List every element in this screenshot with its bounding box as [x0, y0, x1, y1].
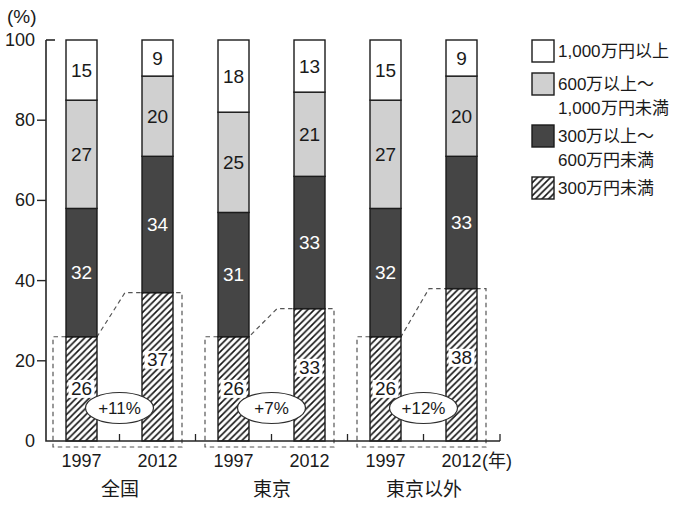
year-label: 1997 [213, 451, 253, 471]
value-label: 27 [71, 144, 92, 165]
legend-label: 300万円未満 [558, 179, 654, 198]
annotation-label: +11% [98, 399, 141, 418]
value-label: 26 [71, 378, 92, 399]
value-label: 33 [299, 357, 320, 378]
value-label: 26 [223, 378, 244, 399]
annotation-label: +12% [402, 399, 446, 418]
legend-swatch-hatch [532, 177, 554, 199]
legend-label: 1,000万円以上 [558, 42, 669, 61]
value-label: 33 [451, 212, 472, 233]
value-label: 32 [375, 262, 396, 283]
value-label: 20 [451, 106, 472, 127]
year-label: 2012 [137, 451, 177, 471]
value-label: 34 [147, 214, 169, 235]
group-label: 東京 [253, 479, 291, 500]
value-label: 20 [147, 106, 168, 127]
y-tick-label: 20 [15, 351, 35, 371]
value-label: 38 [451, 347, 472, 368]
value-label: 15 [71, 60, 92, 81]
y-tick-label: 60 [15, 190, 35, 210]
income-distribution-chart: 26322715199737342092012+11%全国26312518199… [0, 0, 687, 510]
legend-label: 600万円未満 [558, 151, 654, 170]
value-label: 27 [375, 144, 396, 165]
value-label: 18 [223, 66, 244, 87]
y-tick-label: 40 [15, 271, 35, 291]
group-label: 東京以外 [386, 479, 462, 500]
value-label: 25 [223, 152, 244, 173]
value-label: 37 [147, 349, 168, 370]
legend-label: 600万以上～ [558, 75, 654, 94]
legend-item: 300万円未満 [532, 177, 654, 199]
legend-swatch-light [532, 73, 554, 95]
y-tick-label: 0 [25, 431, 35, 451]
y-tick-label: 80 [15, 110, 35, 130]
year-label: 2012 [289, 451, 329, 471]
value-label: 26 [375, 378, 396, 399]
legend-swatch-dark [532, 125, 554, 147]
legend-label: 300万以上～ [558, 127, 654, 146]
value-label: 9 [152, 48, 163, 69]
value-label: 15 [375, 60, 396, 81]
annotation-label: +7% [254, 399, 289, 418]
value-label: 31 [223, 264, 244, 285]
value-label: 9 [456, 48, 467, 69]
year-label: 1997 [61, 451, 101, 471]
y-axis-unit-label: (%) [7, 6, 37, 27]
year-label: 1997 [365, 451, 405, 471]
legend-swatch-white [532, 40, 554, 62]
chart-svg: 26322715199737342092012+11%全国26312518199… [0, 0, 687, 510]
value-label: 21 [299, 124, 320, 145]
value-label: 33 [299, 232, 320, 253]
y-tick-label: 100 [5, 30, 35, 50]
group-label: 全国 [101, 479, 139, 500]
value-label: 32 [71, 262, 92, 283]
legend-item: 1,000万円以上 [532, 40, 669, 62]
year-label: 2012 [441, 451, 481, 471]
legend-label: 1,000万円未満 [558, 99, 669, 118]
x-axis-unit-label: (年) [482, 451, 512, 471]
value-label: 13 [299, 56, 320, 77]
